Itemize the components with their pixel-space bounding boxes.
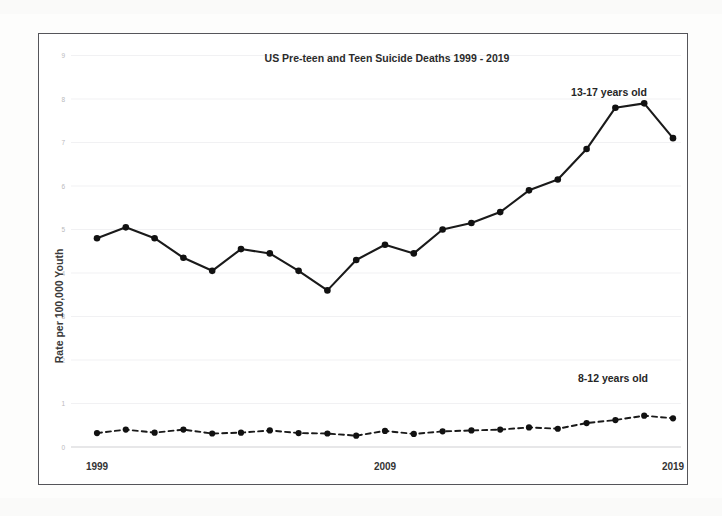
- data-point: [670, 135, 677, 142]
- y-tick-5: 5: [61, 226, 65, 233]
- y-axis-title: Rate per 100,000 Youth: [53, 249, 65, 364]
- line-chart: 0123456789 US Pre-teen and Teen Suicide …: [39, 34, 689, 486]
- data-point: [295, 268, 302, 275]
- data-point: [497, 209, 504, 216]
- data-point: [583, 146, 590, 153]
- data-point: [209, 268, 216, 275]
- data-point: [180, 427, 186, 433]
- data-point: [612, 417, 618, 423]
- x-axis-tick-labels: 199920092019: [86, 461, 685, 472]
- data-point: [267, 250, 274, 257]
- data-point: [267, 427, 273, 433]
- data-point: [670, 415, 676, 421]
- data-point: [555, 176, 562, 183]
- y-tick-9: 9: [61, 52, 65, 59]
- data-point: [94, 430, 100, 436]
- data-point: [238, 430, 244, 436]
- data-point: [584, 420, 590, 426]
- x-tick-2019: 2019: [662, 461, 685, 472]
- data-point: [353, 433, 359, 439]
- data-point: [497, 427, 503, 433]
- data-point: [439, 226, 446, 233]
- data-point: [94, 235, 101, 242]
- data-point: [180, 254, 187, 261]
- x-tick-2009: 2009: [374, 461, 397, 472]
- data-point: [296, 430, 302, 436]
- series-13-17-markers: [94, 100, 677, 294]
- data-point: [440, 428, 446, 434]
- y-tick-8: 8: [61, 96, 65, 103]
- series-label-8-12: 8-12 years old: [578, 372, 648, 384]
- data-point: [526, 424, 532, 430]
- data-point: [526, 187, 533, 194]
- data-point: [555, 426, 561, 432]
- data-point: [123, 224, 130, 231]
- y-tick-7: 7: [61, 139, 65, 146]
- chart-title: US Pre-teen and Teen Suicide Deaths 1999…: [265, 52, 510, 64]
- y-tick-1: 1: [61, 400, 65, 407]
- chart-frame: 0123456789 US Pre-teen and Teen Suicide …: [38, 33, 688, 485]
- data-point: [152, 430, 158, 436]
- y-tick-6: 6: [61, 183, 65, 190]
- series-8-12-markers: [94, 413, 676, 439]
- data-point: [411, 250, 418, 257]
- data-point: [151, 235, 158, 242]
- data-point: [468, 427, 474, 433]
- data-point: [641, 413, 647, 419]
- data-point: [238, 246, 245, 253]
- data-point: [382, 241, 389, 248]
- data-point: [324, 430, 330, 436]
- data-point: [468, 220, 475, 227]
- data-point: [209, 430, 215, 436]
- series-13-17-line: [97, 103, 673, 290]
- data-point: [353, 257, 360, 264]
- data-point: [641, 100, 648, 107]
- data-point: [382, 428, 388, 434]
- x-tick-1999: 1999: [86, 461, 109, 472]
- y-tick-0: 0: [61, 444, 65, 451]
- data-point: [411, 431, 417, 437]
- data-point: [324, 287, 331, 294]
- data-point: [612, 104, 619, 111]
- data-point: [123, 427, 129, 433]
- gridlines: [71, 56, 681, 404]
- series-label-13-17: 13-17 years old: [571, 86, 647, 98]
